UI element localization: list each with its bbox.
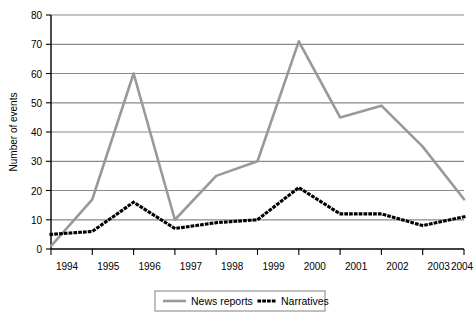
x-tick-label: 2002 [386,261,409,272]
y-tick-label: 80 [31,10,43,21]
x-tick-label: 1998 [221,261,244,272]
y-tick-label: 20 [31,186,43,197]
x-tick-label: 2000 [304,261,327,272]
x-tick-label: 1997 [180,261,203,272]
y-tick-label: 0 [36,244,42,255]
legend-label-news-reports: News reports [191,295,253,307]
y-tick-label: 60 [31,69,43,80]
x-tick-label: 1999 [262,261,285,272]
legend-label-narratives: Narratives [281,295,329,307]
chart-svg: 80 70 60 50 40 30 20 10 0 Number of even… [0,0,476,326]
y-tick-label: 10 [31,215,43,226]
x-tick-label: 1995 [97,261,120,272]
y-tick-label: 30 [31,156,43,167]
y-tick-label: 50 [31,98,43,109]
y-tick-label: 40 [31,127,43,138]
y-axis-title: Number of events [8,93,19,172]
chart-background [0,0,476,326]
line-chart: 80 70 60 50 40 30 20 10 0 Number of even… [0,0,476,326]
x-tick-label: 2003 [428,261,451,272]
chart-legend: News reports Narratives [155,291,329,311]
y-tick-label: 70 [31,39,43,50]
x-tick-label: 2001 [345,261,368,272]
x-tick-label: 1996 [138,261,161,272]
x-tick-label: 1994 [56,261,79,272]
y-axis-tick-labels: 80 70 60 50 40 30 20 10 0 [31,10,43,255]
x-tick-label: 2004 [451,261,474,272]
